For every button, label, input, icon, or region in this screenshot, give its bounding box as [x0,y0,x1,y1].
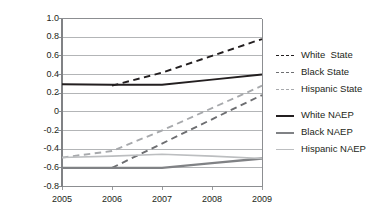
legend-item[interactable]: Hispanic State [276,80,387,97]
legend-item-label: Hispanic State [301,84,362,94]
x-tick-label: 2005 [42,195,82,204]
legend-line-swatch [276,127,294,137]
legend-item-label: Hispanic NAEP [301,144,366,154]
x-tick-label: 2008 [192,195,232,204]
legend-item[interactable]: Hispanic NAEP [276,140,387,157]
legend-line-swatch [276,67,294,77]
line-chart: Standard deviations 1.00.80.60.40.20-0.2… [0,0,387,221]
legend-item[interactable]: Black State [276,63,387,80]
legend-line-swatch [276,110,294,120]
legend-line-swatch [276,84,294,94]
x-tick-label: 2009 [242,195,282,204]
chart-legend: White StateBlack StateHispanic StateWhit… [276,46,387,157]
legend-item[interactable]: White State [276,46,387,63]
legend-item[interactable]: Black NAEP [276,123,387,140]
legend-item-label: White State [301,50,353,60]
legend-line-swatch [276,50,294,60]
x-tick-label: 2007 [142,195,182,204]
legend-item-label: Black State [301,67,349,77]
legend-item[interactable]: White NAEP [276,106,387,123]
legend-item-label: White NAEP [301,110,354,120]
legend-item-label: Black NAEP [301,127,353,137]
legend-line-swatch [276,144,294,154]
x-tick-label: 2006 [92,195,132,204]
